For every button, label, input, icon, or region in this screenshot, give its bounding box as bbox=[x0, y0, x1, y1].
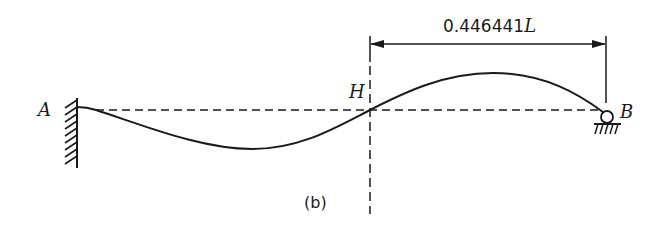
dimension-value: 0.446441 bbox=[443, 16, 524, 36]
point-label-a: A bbox=[36, 99, 51, 120]
dimension-label: 0.446441L bbox=[443, 15, 536, 36]
point-label-b: B bbox=[619, 101, 633, 122]
point-label-h: H bbox=[348, 81, 365, 102]
dimension-unit: L bbox=[523, 15, 536, 36]
beam-deflection-diagram: A H B 0.446441L (b) bbox=[0, 0, 665, 228]
figure-caption: (b) bbox=[304, 193, 327, 212]
fixed-support-icon bbox=[65, 98, 77, 168]
roller-support-icon bbox=[594, 111, 621, 134]
deflection-curve bbox=[77, 73, 603, 149]
